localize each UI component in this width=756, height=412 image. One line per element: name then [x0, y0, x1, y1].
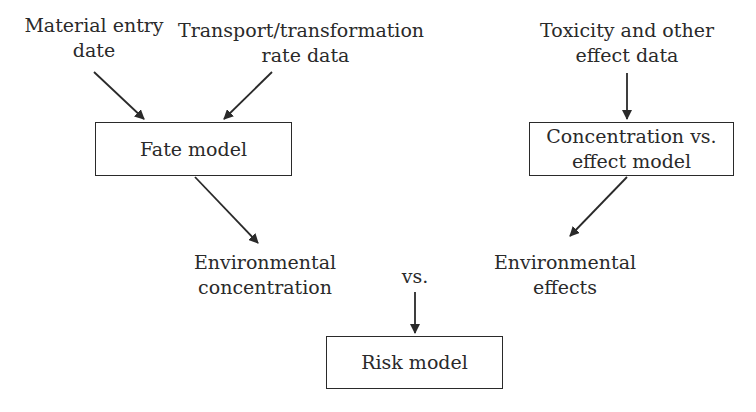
risk-model-label: Risk model	[361, 350, 468, 375]
toxicity-line1: Toxicity and other	[537, 18, 717, 43]
fate-model-box: Fate model	[95, 122, 292, 176]
toxicity-line2: effect data	[537, 43, 717, 68]
arrow-fate-to-concentration	[195, 177, 258, 243]
arrow-transport-to-fate	[224, 72, 272, 119]
input-material-entry: Material entry date	[14, 13, 174, 63]
input-toxicity: Toxicity and other effect data	[537, 18, 717, 68]
arrow-model-to-effects	[570, 177, 627, 236]
material-entry-line1: Material entry	[14, 13, 174, 38]
env-concentration-line2: concentration	[190, 275, 340, 300]
output-environmental-effects: Environmental effects	[490, 250, 640, 300]
comparison-vs-label: vs.	[385, 264, 445, 289]
env-effects-line1: Environmental	[490, 250, 640, 275]
input-transport-rate: Transport/transformation rate data	[178, 18, 378, 68]
fate-model-label: Fate model	[140, 137, 247, 162]
env-concentration-line1: Environmental	[190, 250, 340, 275]
vs-text: vs.	[402, 265, 429, 287]
transport-rate-line2: rate data	[178, 43, 378, 68]
env-effects-line2: effects	[490, 275, 640, 300]
concentration-effect-line2: effect model	[572, 149, 691, 174]
output-environmental-concentration: Environmental concentration	[190, 250, 340, 300]
arrow-material-to-fate	[94, 72, 144, 119]
concentration-effect-line1: Concentration vs.	[546, 124, 716, 149]
concentration-effect-model-box: Concentration vs. effect model	[529, 122, 734, 176]
risk-model-box: Risk model	[326, 336, 503, 389]
transport-rate-line1: Transport/transformation	[178, 18, 378, 43]
material-entry-line2: date	[14, 38, 174, 63]
